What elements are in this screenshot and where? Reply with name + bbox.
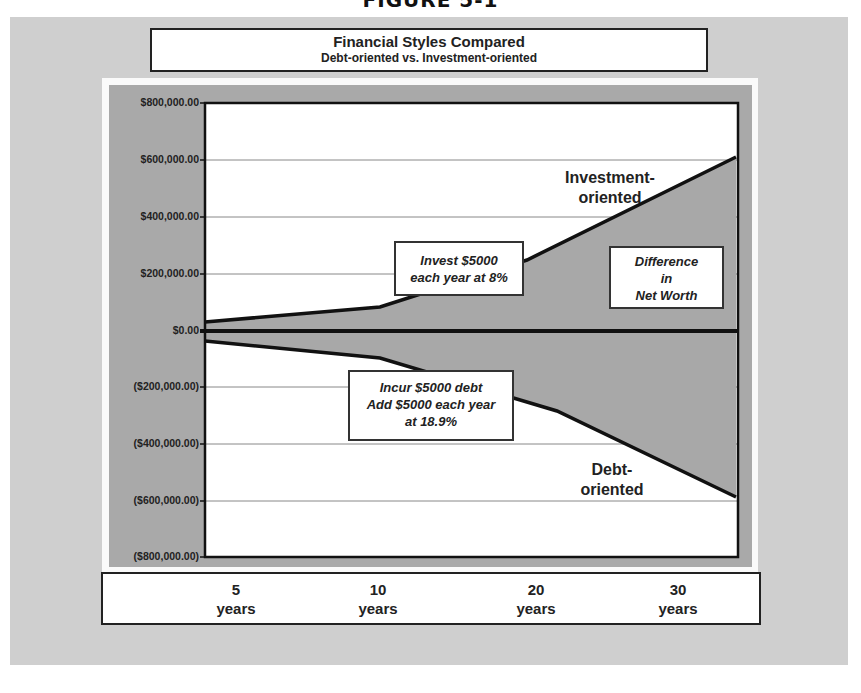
series-label-line: Debt- xyxy=(562,460,662,480)
x-label-number: 20 xyxy=(496,580,576,599)
annotation-line: Difference xyxy=(611,253,722,270)
x-label-unit: years xyxy=(496,599,576,618)
annotation-line: Net Worth xyxy=(611,287,722,304)
investment-series-label: Investment- oriented xyxy=(545,168,675,208)
debt-annotation: Incur $5000 debt Add $5000 each year at … xyxy=(348,370,514,441)
invest-annotation: Invest $5000 each year at 8% xyxy=(394,241,524,296)
x-label-10-years: 10 years xyxy=(338,580,418,618)
debt-series-label: Debt- oriented xyxy=(562,460,662,500)
series-label-line: oriented xyxy=(545,188,675,208)
annotation-line: Add $5000 each year xyxy=(350,396,512,413)
x-label-number: 10 xyxy=(338,580,418,599)
x-label-unit: years xyxy=(638,599,718,618)
x-label-unit: years xyxy=(196,599,276,618)
x-label-number: 5 xyxy=(196,580,276,599)
series-label-line: oriented xyxy=(562,480,662,500)
difference-annotation: Difference in Net Worth xyxy=(609,246,724,309)
x-label-30-years: 30 years xyxy=(638,580,718,618)
y-tick-label: ($200,000.00) xyxy=(79,380,199,392)
annotation-line: each year at 8% xyxy=(396,269,522,286)
y-tick-label: $400,000.00 xyxy=(79,210,199,222)
annotation-line: in xyxy=(611,270,722,287)
series-label-line: Investment- xyxy=(545,168,675,188)
y-tick-label: ($400,000.00) xyxy=(79,437,199,449)
annotation-line: Incur $5000 debt xyxy=(350,379,512,396)
y-tick-label: ($600,000.00) xyxy=(79,494,199,506)
x-label-unit: years xyxy=(338,599,418,618)
x-axis-label-box: 5 years 10 years 20 years 30 years xyxy=(101,572,761,625)
x-label-number: 30 xyxy=(638,580,718,599)
annotation-line: Invest $5000 xyxy=(396,252,522,269)
y-tick-label: $200,000.00 xyxy=(79,267,199,279)
y-tick-label: $600,000.00 xyxy=(79,153,199,165)
x-label-5-years: 5 years xyxy=(196,580,276,618)
y-tick-label: $0.00 xyxy=(79,324,199,336)
x-label-20-years: 20 years xyxy=(496,580,576,618)
annotation-line: at 18.9% xyxy=(350,413,512,430)
y-tick-label: $800,000.00 xyxy=(79,96,199,108)
y-tick-label: ($800,000.00) xyxy=(79,550,199,562)
